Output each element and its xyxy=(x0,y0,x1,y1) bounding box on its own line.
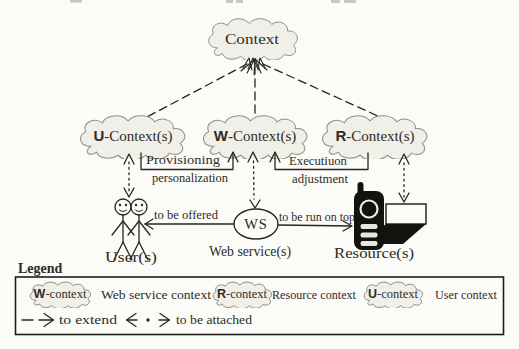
provisioning-label-2: personalization xyxy=(152,170,228,185)
mobile-phone-icon xyxy=(354,182,384,250)
attach-link-resource xyxy=(399,154,409,202)
diagram-page: Context U-Context(s) W-Context(s) R-Cont… xyxy=(0,0,519,349)
provisioning-label-1: Provisioning xyxy=(146,152,221,167)
page-crop-artifacts xyxy=(70,0,356,3)
r-context-label: R-Context(s) xyxy=(335,127,414,145)
r-context-letter: R xyxy=(335,127,346,144)
extend-edge-r xyxy=(263,64,380,117)
run-on-top-label: to be run on top xyxy=(279,210,355,224)
legend-title: Legend xyxy=(18,261,63,276)
web-service-label: Web service(s) xyxy=(209,243,291,260)
attach-link-users xyxy=(124,154,134,197)
context-converge-arrows xyxy=(241,58,267,75)
legend-attached-symbol xyxy=(127,314,170,327)
legend-u-cloud-label: U-context xyxy=(368,287,419,301)
legend-r-cloud-label: R-context xyxy=(217,287,268,301)
ws-label: WS xyxy=(244,216,268,232)
extend-edge-u xyxy=(145,64,247,118)
users-label: User(s) xyxy=(105,249,157,266)
extend-edges xyxy=(145,64,380,118)
legend-w-cloud-label: W-context xyxy=(34,287,87,301)
legend-extend-symbol xyxy=(22,314,54,327)
legend-r-desc: Resource context xyxy=(272,287,356,302)
w-context-label: W-Context(s) xyxy=(214,127,297,145)
execution-label-1: Executiuon xyxy=(289,153,347,168)
legend-w-desc: Web service context xyxy=(101,287,211,302)
u-context-letter: U xyxy=(93,127,104,144)
legend-u-desc: User context xyxy=(435,287,497,302)
attach-link-ws xyxy=(248,152,260,208)
resources-label: Resource(s) xyxy=(334,245,414,262)
offered-label: to be offered xyxy=(154,208,219,222)
legend-extend-desc: to extend xyxy=(59,312,117,327)
context-cloud-label: Context xyxy=(225,31,279,47)
u-context-label: U-Context(s) xyxy=(93,127,172,145)
execution-label-2: adjustment xyxy=(292,171,348,186)
legend-attached-desc: to be attached xyxy=(176,312,252,327)
w-context-letter: W xyxy=(214,127,229,144)
context-diagram: Context U-Context(s) W-Context(s) R-Cont… xyxy=(0,0,519,349)
